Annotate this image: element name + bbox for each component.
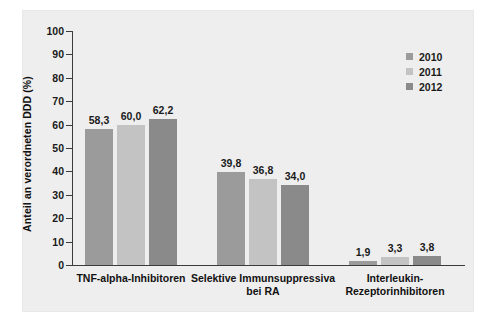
bar[interactable]: 39,8: [217, 172, 245, 265]
bar-fill: [217, 172, 245, 265]
bar-fill: [85, 129, 113, 265]
y-axis-line: [72, 31, 73, 266]
y-axis-tick-label-text: 40: [28, 166, 64, 176]
y-axis-tick: [66, 171, 72, 172]
bar-value-label: 60,0: [121, 110, 141, 122]
legend-item[interactable]: 2012: [406, 80, 442, 93]
y-axis-tick-label: 100: [24, 26, 64, 36]
x-axis-line: [72, 265, 465, 266]
bar[interactable]: 60,0: [117, 125, 145, 265]
y-axis-tick: [66, 242, 72, 243]
bar-value-label: 3,8: [420, 241, 435, 253]
y-axis-tick-label-text: 20: [28, 213, 64, 223]
bar-fill: [413, 256, 441, 265]
y-axis-tick-label-text: 30: [28, 190, 64, 200]
y-axis-tick-label-text: 70: [28, 96, 64, 106]
legend-swatch: [406, 53, 413, 60]
y-axis-tick-label-text: 100: [28, 26, 64, 36]
bar[interactable]: 62,2: [149, 119, 177, 265]
bar-value-label: 3,3: [388, 242, 403, 254]
bar[interactable]: 36,8: [249, 179, 277, 265]
bar[interactable]: 3,3: [381, 257, 409, 265]
legend-swatch: [406, 68, 413, 75]
legend-item[interactable]: 2010: [406, 50, 442, 63]
bar-fill: [249, 179, 277, 265]
legend-label: 2011: [419, 67, 442, 77]
y-axis-tick-label-text: 80: [28, 73, 64, 83]
y-axis-tick-label: 0: [24, 260, 64, 270]
legend: 201020112012: [406, 50, 442, 95]
category-label-line: Rezeptorinhibitoren: [300, 285, 490, 298]
y-axis-tick: [66, 265, 72, 266]
y-axis-tick: [66, 125, 72, 126]
legend-swatch: [406, 83, 413, 90]
bar[interactable]: 3,8: [413, 256, 441, 265]
y-axis-tick: [66, 148, 72, 149]
bar-value-label: 36,8: [253, 164, 273, 176]
bar-value-label: 58,3: [89, 114, 109, 126]
legend-item[interactable]: 2011: [406, 65, 442, 78]
bar-value-label: 39,8: [221, 157, 241, 169]
y-axis-tick: [66, 101, 72, 102]
bar-fill: [149, 119, 177, 265]
y-axis-tick: [66, 54, 72, 55]
plot-area: 1009080706050403020100 Anteil an verordn…: [0, 0, 494, 328]
y-axis-tick: [66, 195, 72, 196]
bar-value-label: 34,0: [285, 170, 305, 182]
bar-fill: [117, 125, 145, 265]
bar[interactable]: 58,3: [85, 129, 113, 265]
bar[interactable]: 34,0: [281, 185, 309, 265]
bar-value-label: 62,2: [153, 104, 173, 116]
bar-value-label: 1,9: [356, 246, 371, 258]
bar-fill: [381, 257, 409, 265]
category-label: Interleukin-Rezeptorinhibitoren: [300, 272, 490, 298]
y-axis-tick-label-text: 10: [28, 237, 64, 247]
bar-fill: [281, 185, 309, 265]
chart-figure: 1009080706050403020100 Anteil an verordn…: [0, 0, 494, 328]
y-axis-tick: [66, 218, 72, 219]
y-axis-tick: [66, 78, 72, 79]
y-axis-tick: [66, 31, 72, 32]
y-axis-tick-label-text: 60: [28, 120, 64, 130]
y-axis-tick-label-text: 90: [28, 49, 64, 59]
y-axis-tick-label-text: 0: [28, 260, 64, 270]
y-axis-tick-label-text: 50: [28, 143, 64, 153]
legend-label: 2010: [419, 52, 442, 62]
bar[interactable]: 1,9: [349, 261, 377, 265]
legend-label: 2012: [419, 82, 442, 92]
y-axis-title: Anteil an verordneten DDD (%): [21, 54, 33, 254]
bar-fill: [349, 261, 377, 265]
category-label-line: Interleukin-: [300, 272, 490, 285]
